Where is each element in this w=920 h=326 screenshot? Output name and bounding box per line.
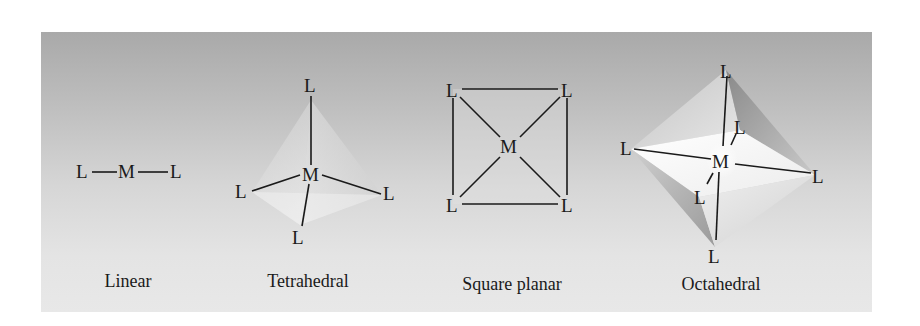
- coordination-geometries-figure: L M L Linear L M L L L Tetrahedral: [0, 0, 920, 326]
- caption-octahedral: Octahedral: [682, 274, 761, 294]
- linear-geometry: L M L Linear: [76, 161, 182, 291]
- ligand-label-right: L: [812, 166, 824, 187]
- ligand-label-left: L: [235, 181, 247, 202]
- ligand-label-front: L: [694, 187, 706, 208]
- octahedral-geometry: L L L M L L L Octahedral: [620, 61, 824, 294]
- ligand-label-top: L: [304, 75, 316, 96]
- metal-label: M: [302, 164, 319, 185]
- caption-linear: Linear: [105, 271, 152, 291]
- ligand-label: L: [76, 161, 88, 182]
- metal-label: M: [118, 161, 135, 182]
- caption-tetrahedral: Tetrahedral: [267, 271, 349, 291]
- ligand-label-top-left: L: [446, 80, 458, 101]
- ligand-label-left: L: [620, 138, 632, 159]
- metal-label: M: [500, 136, 517, 157]
- ligand-label: L: [170, 161, 182, 182]
- metal-label: M: [712, 151, 729, 172]
- tetrahedral-geometry: L M L L L Tetrahedral: [235, 75, 395, 291]
- caption-square-planar: Square planar: [462, 274, 561, 294]
- tetrahedron-face: [252, 192, 382, 225]
- ligand-label-top: L: [720, 61, 732, 82]
- ligand-label-back: L: [734, 117, 746, 138]
- ligand-label-bottom-left: L: [446, 195, 458, 216]
- ligand-label-right: L: [383, 183, 395, 204]
- ligand-label-bottom-right: L: [561, 195, 573, 216]
- ligand-label-top-right: L: [561, 80, 573, 101]
- square-planar-geometry: L L M L L Square planar: [446, 80, 573, 294]
- ligand-label-bottom: L: [292, 227, 304, 248]
- ligand-label-bottom: L: [708, 246, 720, 267]
